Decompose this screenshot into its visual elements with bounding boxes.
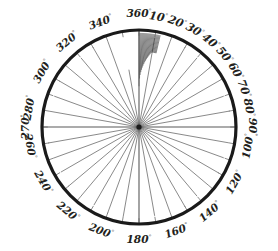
degree-label-320: 320°	[53, 28, 80, 54]
degree-label-value: 200	[87, 220, 113, 239]
polar-diagram-root: 10°20°30°40°50°60°70°80°90°100°120°140°1…	[0, 0, 278, 251]
degree-symbol: °	[24, 94, 31, 98]
degree-label-340: 340°	[87, 11, 115, 31]
degree-label-360: 360°	[126, 6, 151, 19]
degree-symbol: °	[32, 154, 39, 158]
center-point	[136, 124, 141, 129]
center-dot	[136, 124, 141, 129]
degree-label-value: 90	[246, 118, 260, 134]
polar-circle-chart: 10°20°30°40°50°60°70°80°90°100°120°140°1…	[0, 0, 278, 251]
degree-label-280: 280°	[20, 94, 37, 122]
degree-label-200: 200°	[87, 220, 116, 241]
degree-label-180: 180°	[126, 232, 151, 245]
degree-label-80: 80°	[241, 97, 258, 118]
degree-label-value: 100	[239, 135, 255, 159]
degree-label-70: 70°	[235, 78, 255, 100]
degree-label-value: 120	[223, 170, 245, 196]
degree-label-value: 300	[30, 59, 52, 85]
degree-label-value: 280	[20, 97, 36, 122]
degree-label-160: 160°	[163, 220, 191, 240]
degree-symbol: °	[149, 232, 152, 239]
degree-symbol: °	[149, 6, 152, 13]
degree-label-100: 100°	[239, 133, 256, 160]
degree-label-value: 180	[126, 233, 149, 245]
hatch-line	[154, 35, 158, 53]
degree-symbol: °	[250, 113, 257, 117]
degree-symbol: °	[253, 133, 260, 136]
degree-label-300: 300°	[30, 57, 54, 85]
degree-label-value: 360	[126, 7, 149, 19]
